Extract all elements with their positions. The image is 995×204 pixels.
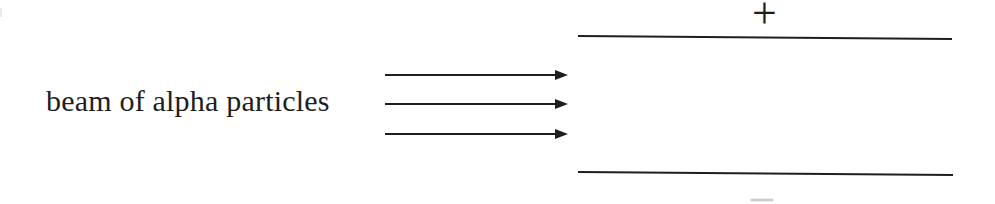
bottom-plate-charge-symbol: − xyxy=(748,176,775,204)
arrow-right-icon xyxy=(555,99,568,109)
arrow-shaft xyxy=(385,74,557,76)
beam-arrow-top xyxy=(385,70,568,80)
arrow-shaft xyxy=(385,103,557,105)
top-plate-charge-symbol: + xyxy=(752,0,777,36)
beam-label: beam of alpha particles xyxy=(46,84,330,118)
arrow-right-icon xyxy=(555,129,568,139)
beam-arrow-middle xyxy=(385,99,568,109)
top-plate xyxy=(578,35,952,40)
beam-arrow-bottom xyxy=(385,129,568,139)
arrow-right-icon xyxy=(555,70,568,80)
alpha-particle-deflection-diagram: beam of alpha particles + − xyxy=(0,0,995,204)
scan-edge-artifact xyxy=(0,8,2,17)
arrow-shaft xyxy=(385,133,557,135)
